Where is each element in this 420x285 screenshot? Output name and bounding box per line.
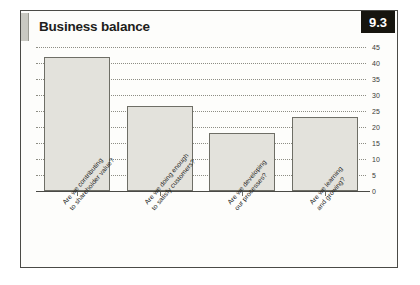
y-axis-tick-label: 5: [372, 172, 376, 179]
plot-area: 051015202530354045: [36, 47, 366, 191]
section-number-badge: 9.3: [361, 11, 395, 33]
gridline: [36, 47, 366, 48]
y-axis-tick-label: 30: [372, 92, 380, 99]
page-title: Business balance: [39, 19, 150, 34]
y-axis-tick-label: 20: [372, 124, 380, 131]
chart-header: Business balance 9.3: [21, 11, 397, 45]
y-axis-tick-label: 0: [372, 188, 376, 195]
y-axis-tick-label: 25: [372, 108, 380, 115]
y-axis-tick-label: 35: [372, 76, 380, 83]
y-axis-tick-label: 40: [372, 60, 380, 67]
header-accent-tab: [21, 13, 29, 41]
chart-figure: Business balance 9.3 051015202530354045 …: [20, 10, 398, 268]
y-axis-tick-label: 10: [372, 156, 380, 163]
y-axis-tick-label: 45: [372, 44, 380, 51]
